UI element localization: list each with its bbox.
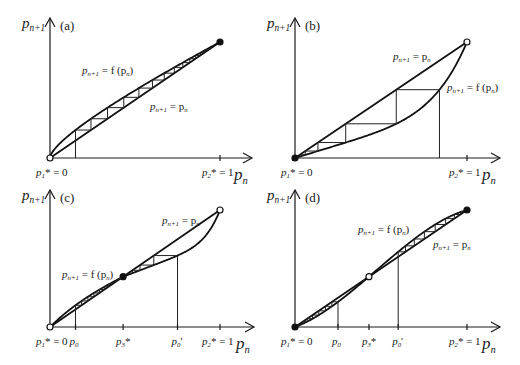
- curve-label: pn+1 = f (pn): [81, 64, 134, 77]
- x-tick-label: p0: [69, 335, 80, 348]
- unstable-fixed-point-marker: [47, 155, 53, 161]
- unstable-fixed-point-marker: [464, 39, 470, 45]
- fixed-point-label-p2*: p2* = 1: [448, 335, 481, 348]
- y-axis-label: pn+1: [266, 15, 290, 33]
- diagonal-label: pn+1 = pn: [392, 50, 431, 63]
- y-axis-label: pn+1: [21, 15, 45, 33]
- fixed-point-label-p1*: p1* = 0: [35, 335, 68, 348]
- cobweb-figure: pn+1pn(a)p1* = 0p2* = 1pn+1 = f (pn)pn+1…: [0, 0, 520, 365]
- x-tick-label: p0': [171, 335, 183, 348]
- stable-fixed-point-marker: [120, 274, 126, 280]
- fixed-point-label-p2*: p2* = 1: [201, 335, 234, 348]
- stable-fixed-point-marker: [464, 207, 470, 213]
- fixed-point-label-p3*: p3*: [361, 335, 376, 348]
- unstable-fixed-point-marker: [366, 274, 372, 280]
- diagonal-label: pn+1 = pn: [432, 238, 471, 251]
- x-tick-label: p0: [331, 335, 342, 348]
- curve-label: pn+1 = f (pn): [357, 223, 410, 236]
- panel-a: pn+1pn(a)p1* = 0p2* = 1pn+1 = f (pn)pn+1…: [21, 15, 252, 186]
- panel-label: (c): [60, 190, 74, 205]
- x-axis-label: pn: [481, 334, 496, 355]
- y-axis-label: pn+1: [21, 187, 45, 205]
- fixed-point-label-p3*: p3*: [115, 335, 130, 348]
- unstable-fixed-point-marker: [47, 324, 53, 330]
- panel-d: pn+1pn(d)p0p0'p1* = 0p3*p2* = 1pn+1 = f …: [266, 187, 500, 355]
- stable-fixed-point-marker: [292, 155, 298, 161]
- cobweb-path: [76, 278, 122, 327]
- x-axis-label: pn: [481, 165, 496, 186]
- curve-label: pn+1 = f (pn): [61, 268, 114, 281]
- fixed-point-label-p1*: p1* = 0: [280, 166, 313, 179]
- panel-b: pn+1pn(b)p1* = 0p2* = 1pn+1 = f (pn)pn+1…: [266, 15, 500, 186]
- x-axis-label: pn: [233, 165, 248, 186]
- cobweb-path: [296, 302, 338, 327]
- fixed-point-label-p2*: p2* = 1: [201, 166, 234, 179]
- cobweb-path: [295, 90, 439, 158]
- panel-label: (a): [60, 18, 74, 33]
- x-axis-label: pn: [235, 334, 250, 355]
- panel-c: pn+1pn(c)p0p0'p1* = 0p3*p2* = 1pn+1 = f …: [21, 187, 254, 355]
- panel-label: (b): [305, 18, 320, 33]
- stable-fixed-point-marker: [292, 324, 298, 330]
- unstable-fixed-point-marker: [217, 207, 223, 213]
- y-axis-label: pn+1: [266, 187, 290, 205]
- cobweb-path: [76, 48, 210, 158]
- fixed-point-label-p1*: p1* = 0: [280, 335, 313, 348]
- curve-label: pn+1 = f (pn): [446, 81, 499, 94]
- diagonal-label: pn+1 = pn: [149, 100, 188, 113]
- fixed-point-label-p1*: p1* = 0: [35, 166, 68, 179]
- x-tick-label: p0': [391, 335, 403, 348]
- diagonal-label: pn+1 = pn: [161, 214, 200, 227]
- diagonal-line: [295, 42, 467, 158]
- panel-label: (d): [305, 190, 320, 205]
- fixed-point-label-p2*: p2* = 1: [448, 166, 481, 179]
- stable-fixed-point-marker: [217, 39, 223, 45]
